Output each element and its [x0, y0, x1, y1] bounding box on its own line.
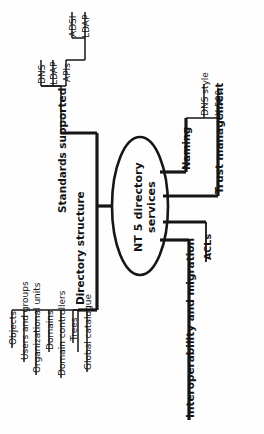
interoperability-and-migration-label: Interoperability and migration: [185, 238, 196, 418]
global-catalogue-label: Global catalogue: [84, 294, 93, 370]
dns-style-label: DNS style: [201, 72, 210, 116]
organizational-units-label: Organizational units: [33, 282, 42, 373]
adsi-label: ADSI: [69, 16, 78, 37]
trust-management-label: Trust management: [214, 83, 225, 194]
trees-label: Trees: [70, 318, 79, 341]
apis-label: APIs: [63, 63, 72, 82]
dns-label: DNS: [38, 65, 47, 84]
acls-label: ACLs: [203, 234, 213, 260]
center-node-label-line1: NT 5 directoryservices: [133, 162, 157, 252]
domains-label: Domains: [46, 310, 55, 350]
domain-controllers-label: Domain controllers: [58, 291, 67, 376]
directory-structure-label: Directory structure: [75, 191, 86, 305]
users-and-groups-label: Users and groups: [21, 281, 30, 360]
ldap-sub-label: LDAP: [82, 15, 91, 38]
mind-map-diagram: NT 5 directoryservices Standards support…: [0, 0, 264, 434]
objects-label: Objects: [9, 311, 18, 345]
naming-label: Naming: [182, 127, 192, 170]
ldap-top-label: LDAP: [50, 62, 59, 85]
standards-supported-label: Standards supported: [57, 88, 68, 213]
